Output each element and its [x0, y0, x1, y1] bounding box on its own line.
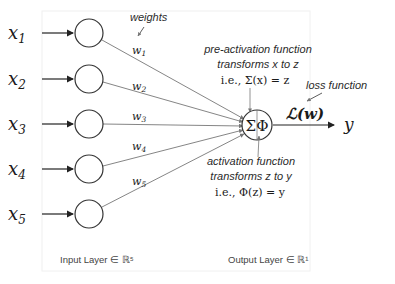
svg-text:transforms z to y: transforms z to y	[210, 170, 293, 182]
svg-text:w1: w1	[132, 44, 146, 58]
svg-text:x1: x1	[8, 22, 26, 46]
input-labels: x1 x2 x3 x4 x5	[8, 22, 26, 227]
svg-text:w5: w5	[132, 175, 146, 189]
input-arrows	[42, 33, 73, 214]
activation-annotation: activation function transforms z to y i.…	[207, 155, 295, 199]
svg-text:x4: x4	[8, 158, 26, 182]
loss-symbol: ℒ(w)	[286, 105, 324, 123]
svg-text:w2: w2	[132, 80, 146, 94]
svg-text:w3: w3	[132, 110, 146, 124]
svg-text:x2: x2	[8, 68, 26, 92]
input-layer-caption: Input Layer ∈ ℝ⁵	[60, 254, 134, 265]
svg-text:w4: w4	[132, 140, 146, 154]
svg-text:activation function: activation function	[207, 155, 295, 167]
svg-text:x3: x3	[8, 113, 26, 137]
output-label: y	[343, 114, 354, 134]
neuron-symbol: ΣΦ	[246, 117, 269, 135]
input-neuron-5	[75, 200, 103, 228]
svg-text:x5: x5	[8, 203, 26, 227]
weight-labels: w1 w2 w3 w4 w5	[132, 44, 146, 189]
svg-text:transforms x to z: transforms x to z	[217, 58, 299, 70]
svg-text:pre-activation function: pre-activation function	[203, 43, 312, 55]
weights-pointer	[138, 27, 144, 36]
input-neuron-1	[75, 19, 103, 47]
weights-annotation: weights	[130, 11, 168, 23]
output-layer-caption: Output Layer ∈ ℝ¹	[228, 254, 308, 265]
loss-pointer	[307, 93, 322, 101]
svg-text:i.e., Φ(z) = y: i.e., Φ(z) = y	[215, 186, 286, 199]
input-neuron-2	[75, 65, 103, 93]
input-neuron-3	[75, 110, 103, 138]
perceptron-diagram: x1 x2 x3 x4 x5 w1 w2 w3 w4 w5 weights pr…	[0, 0, 395, 284]
output-neuron: ΣΦ	[242, 110, 272, 140]
input-neuron-4	[75, 155, 103, 183]
svg-text:i.e., Σ(x) = z: i.e., Σ(x) = z	[221, 74, 290, 87]
pre-activation-annotation: pre-activation function transforms x to …	[203, 43, 312, 87]
loss-function-annotation: loss function	[306, 79, 367, 91]
input-neurons	[75, 19, 103, 228]
